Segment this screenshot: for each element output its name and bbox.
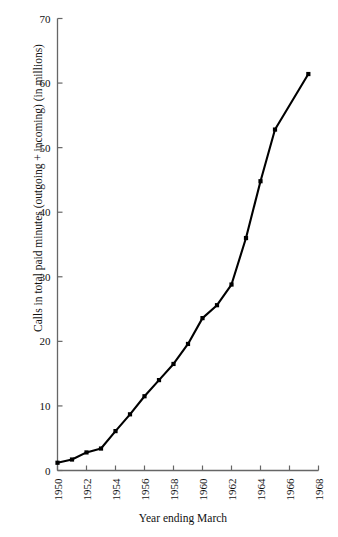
data-point-marker (171, 362, 175, 366)
x-axis-title: Year ending March (0, 512, 338, 524)
x-tick-label: 1950 (52, 478, 64, 501)
data-point-marker (157, 378, 161, 382)
x-tick-label: 1960 (197, 478, 209, 501)
data-line (58, 74, 309, 463)
data-point-marker (84, 450, 88, 454)
x-tick-label: 1962 (226, 479, 238, 501)
data-point-marker (258, 179, 262, 183)
x-tick-label: 1966 (284, 478, 296, 501)
data-point-marker (142, 394, 146, 398)
x-tick-label: 1956 (139, 478, 151, 501)
chart-figure: Calls in total paid minutes (outgoing + … (0, 0, 338, 537)
x-tick-label: 1954 (110, 478, 122, 501)
data-point-marker (200, 316, 204, 320)
y-tick-label: 40 (40, 206, 52, 218)
y-tick-label: 0 (45, 465, 51, 477)
data-point-marker (229, 282, 233, 286)
data-point-marker (128, 412, 132, 416)
y-tick-label: 60 (40, 77, 52, 89)
data-point-marker (273, 127, 277, 131)
data-point-marker (99, 446, 103, 450)
y-tick-label: 20 (40, 335, 52, 347)
data-point-marker (113, 429, 117, 433)
data-point-marker (186, 342, 190, 346)
y-tick-label: 30 (40, 271, 52, 283)
line-chart-plot: 0102030405060701950195219541956195819601… (0, 0, 338, 537)
data-point-marker (55, 461, 59, 465)
x-tick-label: 1968 (313, 478, 325, 501)
y-tick-label: 70 (40, 13, 52, 25)
x-tick-label: 1952 (81, 479, 93, 501)
x-tick-label: 1964 (255, 478, 267, 501)
x-tick-label: 1958 (168, 478, 180, 501)
data-point-marker (244, 236, 248, 240)
data-point-marker (70, 457, 74, 461)
y-tick-label: 10 (40, 400, 52, 412)
y-tick-label: 50 (40, 142, 52, 154)
data-point-marker (215, 303, 219, 307)
data-point-marker (306, 72, 310, 76)
